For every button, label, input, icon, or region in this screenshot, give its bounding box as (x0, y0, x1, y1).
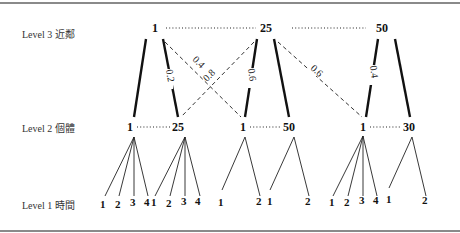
multilevel-diagram: 1 25 50 0.2 0.4 0.8 0.6 0.6 0.4 1 25 1 5… (0, 0, 460, 233)
l3-node-25: 25 (260, 21, 272, 35)
l2-node-50: 50 (283, 120, 295, 134)
group-5-links (333, 136, 377, 196)
leaf: 4 (195, 195, 201, 207)
link-l3-50-to-l2-30 (395, 39, 410, 117)
leaf: 3 (359, 194, 365, 206)
leaf: 2 (305, 195, 311, 207)
link-l3-25-to-l2-50 (274, 39, 289, 117)
l2-node-25: 25 (172, 120, 184, 134)
l2-node-1b: 1 (240, 120, 246, 134)
leaf: 4 (144, 196, 150, 208)
dashed-link-l3-25-to-l2-1c (278, 42, 362, 117)
leaf: 1 (329, 196, 335, 208)
dashed-link-l3-25-to-l2-25 (181, 42, 254, 117)
leaf: 3 (181, 195, 187, 207)
leaf: 1 (218, 196, 224, 208)
weight-label: 0.8 (201, 67, 218, 84)
group-4-links (270, 137, 309, 196)
weight-label: 0.4 (191, 54, 208, 71)
leaf: 3 (130, 196, 136, 208)
l3-node-50: 50 (376, 21, 388, 35)
group-3-links (222, 137, 260, 196)
leaf: 1 (100, 198, 106, 210)
l3-node-1: 1 (152, 21, 158, 35)
weight-label: 0.4 (368, 65, 381, 79)
leaf: 1 (151, 196, 157, 208)
leaf: 2 (422, 194, 428, 206)
leaf: 1 (267, 195, 273, 207)
leaf: 1 (386, 193, 392, 205)
link-l3-1-to-l2-1 (134, 39, 146, 117)
weight-label: 0.2 (164, 68, 177, 82)
leaf: 2 (115, 198, 121, 210)
leaf: 2 (344, 196, 350, 208)
leaf: 2 (166, 197, 172, 209)
group-1-links (105, 137, 148, 196)
l2-node-1c: 1 (360, 120, 366, 134)
group-2-links (155, 137, 200, 196)
leaf: 2 (256, 195, 262, 207)
leaf: 4 (373, 194, 379, 206)
weight-label: 0.6 (246, 68, 259, 82)
group-6-links (389, 137, 426, 196)
l2-node-1a: 1 (127, 120, 133, 134)
l2-node-30: 30 (403, 120, 415, 134)
